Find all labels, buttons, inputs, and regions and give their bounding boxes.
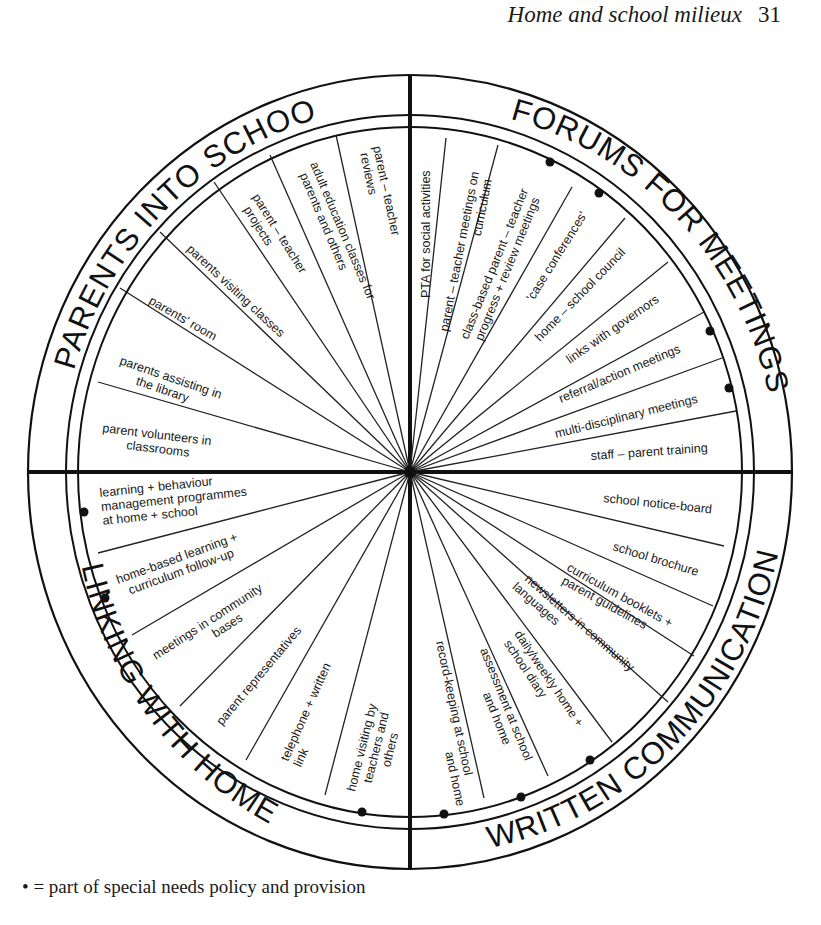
- segment-telephone-written-link: telephone + written link: [278, 658, 348, 769]
- segment-record-keeping-school-home: record-keeping at school and home: [419, 640, 481, 808]
- segment-home-visiting: home visiting by teachers and others: [344, 699, 407, 800]
- special-needs-dot: [586, 756, 595, 765]
- special-needs-dot: [517, 793, 526, 802]
- segment-parent-representatives: parent representatives: [214, 624, 305, 728]
- special-needs-dot: [440, 810, 449, 819]
- svg-text:PTA for social activities: PTA for social activities: [419, 170, 433, 298]
- special-needs-dot: [595, 189, 604, 198]
- quadrant-title-forums-for-meetings: FORUMS FOR MEETINGS: [508, 92, 796, 396]
- svg-text:record-keeping at school: record-keeping at school and home: [419, 640, 481, 808]
- wheel-diagram: PARENTS INTO SCHOOL FORUMS FOR MEETINGS …: [0, 0, 821, 925]
- svg-text:curriculum booklets + pa: curriculum booklets + parent guidelines: [558, 560, 678, 644]
- svg-text:staff – parent training: staff – parent training: [590, 441, 708, 463]
- special-needs-dot: [101, 594, 110, 603]
- svg-text:telephone + written link: telephone + written link: [278, 658, 348, 769]
- legend: • = part of special needs policy and pro…: [22, 876, 365, 898]
- segment-parent-teacher-reviews: parent – teacher reviews: [356, 145, 403, 243]
- segment-school-notice-board: school notice-board: [603, 491, 713, 516]
- legend-text: = part of special needs policy and provi…: [33, 876, 365, 897]
- special-needs-dot: [725, 384, 734, 393]
- special-needs-dot: [358, 808, 367, 817]
- segment-pta-social-activities: PTA for social activities: [419, 170, 433, 298]
- svg-text:meetings in community ba: meetings in community bases: [150, 579, 275, 674]
- segment-meetings-community-bases: meetings in community bases: [150, 579, 275, 674]
- segment-home-based-learning: home-based learning + curriculum follow-…: [114, 529, 247, 600]
- svg-text:school brochure: school brochure: [611, 539, 700, 578]
- svg-text:parent representatives: parent representatives: [214, 624, 305, 728]
- segment-curriculum-booklets: curriculum booklets + parent guidelines: [558, 560, 678, 644]
- spokes: [98, 135, 736, 798]
- special-needs-dot-icon: •: [22, 876, 29, 897]
- segment-parents-room: parents' room: [147, 293, 220, 343]
- special-needs-dot: [80, 508, 89, 517]
- svg-text:parents' room: parents' room: [147, 293, 220, 343]
- center-hub: [404, 466, 416, 478]
- svg-text:school notice-board: school notice-board: [603, 491, 713, 516]
- svg-text:parent volunteers in cla: parent volunteers in classrooms: [100, 421, 216, 463]
- svg-text:parents assisting in the: parents assisting in the library: [113, 354, 227, 416]
- segment-parents-assisting-library: parents assisting in the library: [113, 354, 227, 416]
- svg-text:home visiting by teacher: home visiting by teachers and others: [344, 699, 407, 800]
- segment-parent-volunteers-classrooms: parent volunteers in classrooms: [100, 421, 216, 463]
- svg-text:parent – teacher reviews: parent – teacher reviews: [356, 145, 403, 243]
- segment-staff-parent-training: staff – parent training: [590, 441, 708, 463]
- special-needs-dot: [546, 158, 555, 167]
- svg-text:home-based learning + cu: home-based learning + curriculum follow-…: [114, 529, 247, 600]
- special-needs-dot: [706, 327, 715, 336]
- segment-school-brochure: school brochure: [611, 539, 700, 578]
